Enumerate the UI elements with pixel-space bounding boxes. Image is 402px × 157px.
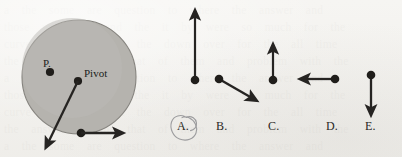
pivot-label: Pivot xyxy=(84,67,107,79)
option-c-label[interactable]: C. xyxy=(268,119,279,134)
option-d-arrow[interactable] xyxy=(305,75,339,84)
option-a-arrow[interactable] xyxy=(191,15,200,84)
option-a-label[interactable]: A. xyxy=(177,119,189,134)
option-b-arrow[interactable] xyxy=(215,75,252,98)
option-b-label[interactable]: B. xyxy=(216,119,227,134)
disk-group xyxy=(22,18,136,134)
point-p-label: P. xyxy=(43,57,51,69)
figure-page: a the some are question to where the ans… xyxy=(0,0,402,157)
physics-diagram xyxy=(0,0,402,157)
option-e-arrow[interactable] xyxy=(367,71,376,110)
option-e-label[interactable]: E. xyxy=(365,119,376,134)
option-d-label[interactable]: D. xyxy=(326,119,338,134)
option-c-arrow[interactable] xyxy=(269,49,278,84)
point-p-dot xyxy=(46,68,54,76)
